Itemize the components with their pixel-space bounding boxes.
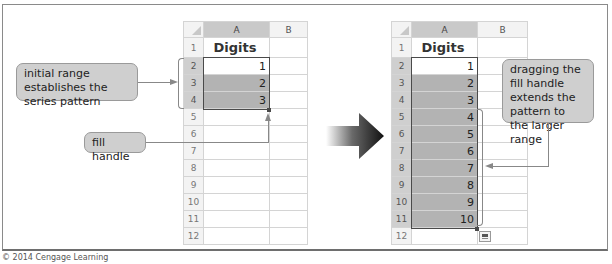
callout-dragging: dragging the fill handle extends the pat…: [502, 59, 594, 123]
cell-b11[interactable]: [270, 211, 308, 228]
cell-a6[interactable]: [204, 126, 270, 143]
cell-b6[interactable]: [270, 126, 308, 143]
cell-a6[interactable]: 5: [412, 126, 478, 143]
column-header-b[interactable]: B: [478, 22, 528, 38]
arrowhead-icon: [485, 163, 493, 169]
callout-connector: [492, 166, 549, 167]
row-header[interactable]: 3: [392, 75, 412, 92]
row-header[interactable]: 11: [184, 211, 204, 228]
callout-fill-handle: fill handle: [84, 132, 146, 153]
cell-a9[interactable]: 8: [412, 177, 478, 194]
callout-connector: [268, 120, 269, 143]
cell-a12[interactable]: [412, 228, 478, 245]
row-header[interactable]: 9: [392, 177, 412, 194]
cell-b10[interactable]: [270, 194, 308, 211]
row-header[interactable]: 3: [184, 75, 204, 92]
cell-b10[interactable]: [478, 194, 528, 211]
row-header[interactable]: 2: [184, 58, 204, 75]
row-header[interactable]: 6: [392, 126, 412, 143]
cell-b4[interactable]: [270, 92, 308, 109]
cell-b9[interactable]: [270, 177, 308, 194]
row-header[interactable]: 1: [184, 38, 204, 58]
cell-a1[interactable]: Digits: [204, 38, 270, 58]
cell-b9[interactable]: [478, 177, 528, 194]
cell-b12[interactable]: [270, 228, 308, 245]
cell-a12[interactable]: [204, 228, 270, 245]
cell-a7[interactable]: 6: [412, 143, 478, 160]
cell-b11[interactable]: [478, 211, 528, 228]
arrow-right-icon: [326, 113, 384, 159]
range-bracket: [178, 58, 184, 109]
right-spreadsheet: A B 1 Digits 2 1 3 2 4 3 5 4 6 5 7 6 8 7: [391, 21, 528, 245]
cell-a10[interactable]: [204, 194, 270, 211]
column-header-b[interactable]: B: [270, 22, 308, 38]
row-header[interactable]: 1: [392, 38, 412, 58]
row-header[interactable]: 12: [392, 228, 412, 245]
cell-b5[interactable]: [270, 109, 308, 126]
cell-a5[interactable]: 4: [412, 109, 478, 126]
cell-b3[interactable]: [270, 75, 308, 92]
select-all-corner[interactable]: [184, 22, 204, 38]
column-header-a[interactable]: A: [412, 22, 478, 38]
row-header[interactable]: 7: [392, 143, 412, 160]
cell-a4[interactable]: 3: [412, 92, 478, 109]
cell-a2[interactable]: 1: [204, 58, 270, 75]
cell-a9[interactable]: [204, 177, 270, 194]
arrowhead-icon: [265, 113, 271, 121]
column-header-a[interactable]: A: [204, 22, 270, 38]
row-header[interactable]: 5: [392, 109, 412, 126]
cell-a3[interactable]: 2: [412, 75, 478, 92]
cell-a8[interactable]: [204, 160, 270, 177]
row-header[interactable]: 11: [392, 211, 412, 228]
range-bracket: [477, 109, 483, 226]
callout-connector: [146, 142, 269, 143]
callout-connector: [138, 82, 170, 83]
select-all-corner[interactable]: [392, 22, 412, 38]
cell-b1[interactable]: [270, 38, 308, 58]
row-header[interactable]: 8: [184, 160, 204, 177]
row-header[interactable]: 4: [392, 92, 412, 109]
row-header[interactable]: 6: [184, 126, 204, 143]
cell-b2[interactable]: [270, 58, 308, 75]
cell-b8[interactable]: [270, 160, 308, 177]
cell-a3[interactable]: 2: [204, 75, 270, 92]
cell-a8[interactable]: 7: [412, 160, 478, 177]
row-header[interactable]: 10: [392, 194, 412, 211]
cell-a10[interactable]: 9: [412, 194, 478, 211]
row-header[interactable]: 4: [184, 92, 204, 109]
arrowhead-icon: [170, 79, 178, 85]
cell-a2[interactable]: 1: [412, 58, 478, 75]
row-header[interactable]: 12: [184, 228, 204, 245]
cell-a4[interactable]: 3: [204, 92, 270, 109]
row-header[interactable]: 2: [392, 58, 412, 75]
row-header[interactable]: 9: [184, 177, 204, 194]
row-header[interactable]: 10: [184, 194, 204, 211]
row-header[interactable]: 5: [184, 109, 204, 126]
cell-a11[interactable]: 10: [412, 211, 478, 228]
auto-fill-options-icon[interactable]: [479, 231, 491, 242]
left-spreadsheet: A B 1 Digits 2 1 3 2 4 3 5 6 7 8: [183, 21, 308, 245]
cell-a11[interactable]: [204, 211, 270, 228]
callout-initial-range: initial range establishes the series pat…: [16, 63, 138, 101]
cell-a7[interactable]: [204, 143, 270, 160]
row-header[interactable]: 7: [184, 143, 204, 160]
cell-b7[interactable]: [270, 143, 308, 160]
callout-connector: [548, 123, 549, 167]
copyright-credit: © 2014 Cengage Learning: [2, 253, 108, 262]
cell-b1[interactable]: [478, 38, 528, 58]
row-header[interactable]: 8: [392, 160, 412, 177]
cell-a1[interactable]: Digits: [412, 38, 478, 58]
cell-a5[interactable]: [204, 109, 270, 126]
fill-handle[interactable]: [267, 108, 271, 112]
